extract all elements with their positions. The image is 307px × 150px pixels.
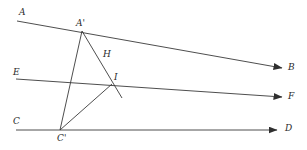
segment-A-prime-through-I [82, 31, 122, 98]
point-label-C: C [13, 117, 20, 126]
rays-group [16, 21, 282, 130]
geometry-diagram-canvas: A A' B E F C C' D H I [0, 0, 307, 150]
segments-group [60, 31, 122, 130]
ray-EF [16, 79, 282, 97]
ray-AB [17, 21, 282, 68]
point-label-H: H [103, 50, 111, 59]
point-label-B: B [288, 63, 295, 72]
point-label-I: I [114, 73, 118, 82]
segment-A-prime-C-prime [60, 31, 82, 130]
segment-C-prime-I [60, 84, 112, 130]
point-label-A: A [19, 8, 26, 17]
geometry-figure [0, 0, 307, 150]
point-label-A-prime: A' [76, 19, 85, 28]
point-label-C-prime: C' [57, 134, 66, 143]
point-label-E: E [13, 68, 20, 77]
point-label-F: F [288, 92, 294, 101]
point-label-D: D [285, 124, 292, 133]
